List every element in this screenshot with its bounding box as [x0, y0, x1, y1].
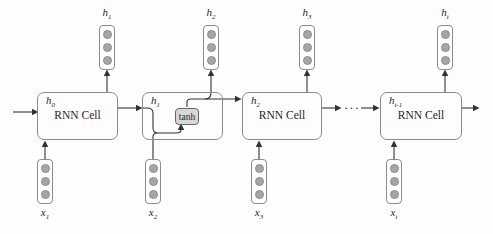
neuron-circle — [103, 56, 112, 65]
tanh-box: tanh — [175, 108, 199, 125]
neuron-circle — [207, 56, 216, 65]
label-sub: 2 — [154, 213, 158, 221]
neuron-circle — [441, 30, 450, 39]
state-sub: 1 — [157, 101, 161, 109]
neuron-circle — [207, 43, 216, 52]
cell2-state-label: h1 — [151, 94, 160, 109]
neuron-circle — [390, 177, 399, 186]
rnn-cell-3: h2 RNN Cell — [242, 92, 322, 140]
neuron-circle — [255, 177, 264, 186]
output-label-h1: h1 — [92, 6, 122, 21]
neuron-circle — [255, 190, 264, 199]
rnn-diagram: h0 RNN Cell h1 h2 RNN Cell ht-1 RNN Cell… — [0, 0, 493, 234]
label-sub: 1 — [46, 213, 50, 221]
input-label-x3: x3 — [244, 206, 274, 221]
input-vector-2 — [145, 159, 161, 204]
neuron-circle — [255, 164, 264, 173]
neuron-circle — [149, 177, 158, 186]
neuron-circle — [207, 30, 216, 39]
rnn-cell-4: ht-1 RNN Cell — [380, 92, 462, 140]
neuron-circle — [441, 43, 450, 52]
neuron-circle — [41, 190, 50, 199]
ellipsis: ··· — [341, 100, 363, 116]
tanh-label: tanh — [179, 112, 195, 122]
input-label-x1: x1 — [30, 206, 60, 221]
label-sub: t — [447, 13, 449, 21]
state-sub: 2 — [257, 101, 261, 109]
label-sub: t — [395, 213, 397, 221]
input-vector-4 — [386, 159, 402, 204]
neuron-circle — [103, 30, 112, 39]
input-label-x2: x2 — [138, 206, 168, 221]
output-label-ht: ht — [430, 6, 460, 21]
neuron-circle — [390, 164, 399, 173]
cell3-title: RNN Cell — [243, 109, 321, 121]
cell3-state-label: h2 — [251, 94, 260, 109]
neuron-circle — [441, 56, 450, 65]
neuron-circle — [103, 43, 112, 52]
output-vector-1 — [99, 25, 115, 70]
neuron-circle — [303, 56, 312, 65]
input-vector-3 — [251, 159, 267, 204]
rnn-cell-1: h0 RNN Cell — [37, 92, 118, 140]
state-sub: t-1 — [395, 101, 403, 109]
input-label-xt: xt — [379, 206, 409, 221]
neuron-circle — [303, 30, 312, 39]
output-label-h3: h3 — [292, 6, 322, 21]
cell4-state-label: ht-1 — [389, 94, 402, 109]
neuron-circle — [149, 190, 158, 199]
label-sub: 2 — [212, 13, 216, 21]
neuron-circle — [390, 190, 399, 199]
output-vector-4 — [437, 25, 453, 70]
label-sub: 3 — [308, 13, 312, 21]
neuron-circle — [41, 177, 50, 186]
neuron-circle — [41, 164, 50, 173]
label-sub: 1 — [108, 13, 112, 21]
input-vector-1 — [37, 159, 53, 204]
cell4-title: RNN Cell — [381, 109, 461, 121]
cell1-title: RNN Cell — [38, 109, 117, 121]
neuron-circle — [303, 43, 312, 52]
label-sub: 3 — [260, 213, 264, 221]
output-vector-3 — [299, 25, 315, 70]
neuron-circle — [149, 164, 158, 173]
state-sub: 0 — [52, 101, 56, 109]
output-vector-2 — [203, 25, 219, 70]
output-label-h2: h2 — [196, 6, 226, 21]
cell1-state-label: h0 — [46, 94, 55, 109]
